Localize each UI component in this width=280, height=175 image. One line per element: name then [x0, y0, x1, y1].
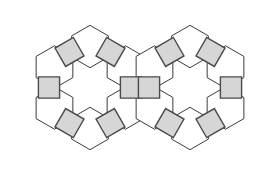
tile-square [220, 77, 241, 98]
tile-square [138, 77, 159, 98]
tiling-figure [0, 0, 280, 175]
tile-square [38, 77, 59, 98]
square-layer [38, 38, 241, 138]
tiling-canvas [0, 0, 280, 175]
